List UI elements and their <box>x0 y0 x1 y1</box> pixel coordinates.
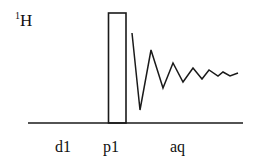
label-p1: p1 <box>103 139 119 155</box>
element-symbol: H <box>20 11 32 30</box>
channel-label: 1H <box>15 12 32 29</box>
label-d1: d1 <box>55 139 71 155</box>
label-aq: aq <box>170 139 185 155</box>
fid-signal <box>132 33 238 110</box>
p1-pulse <box>109 13 127 123</box>
pulse-sequence-diagram: 1H d1 p1 aq <box>0 0 257 166</box>
isotope-mass: 1 <box>15 10 20 21</box>
pulse-sequence-graphic <box>0 0 257 166</box>
